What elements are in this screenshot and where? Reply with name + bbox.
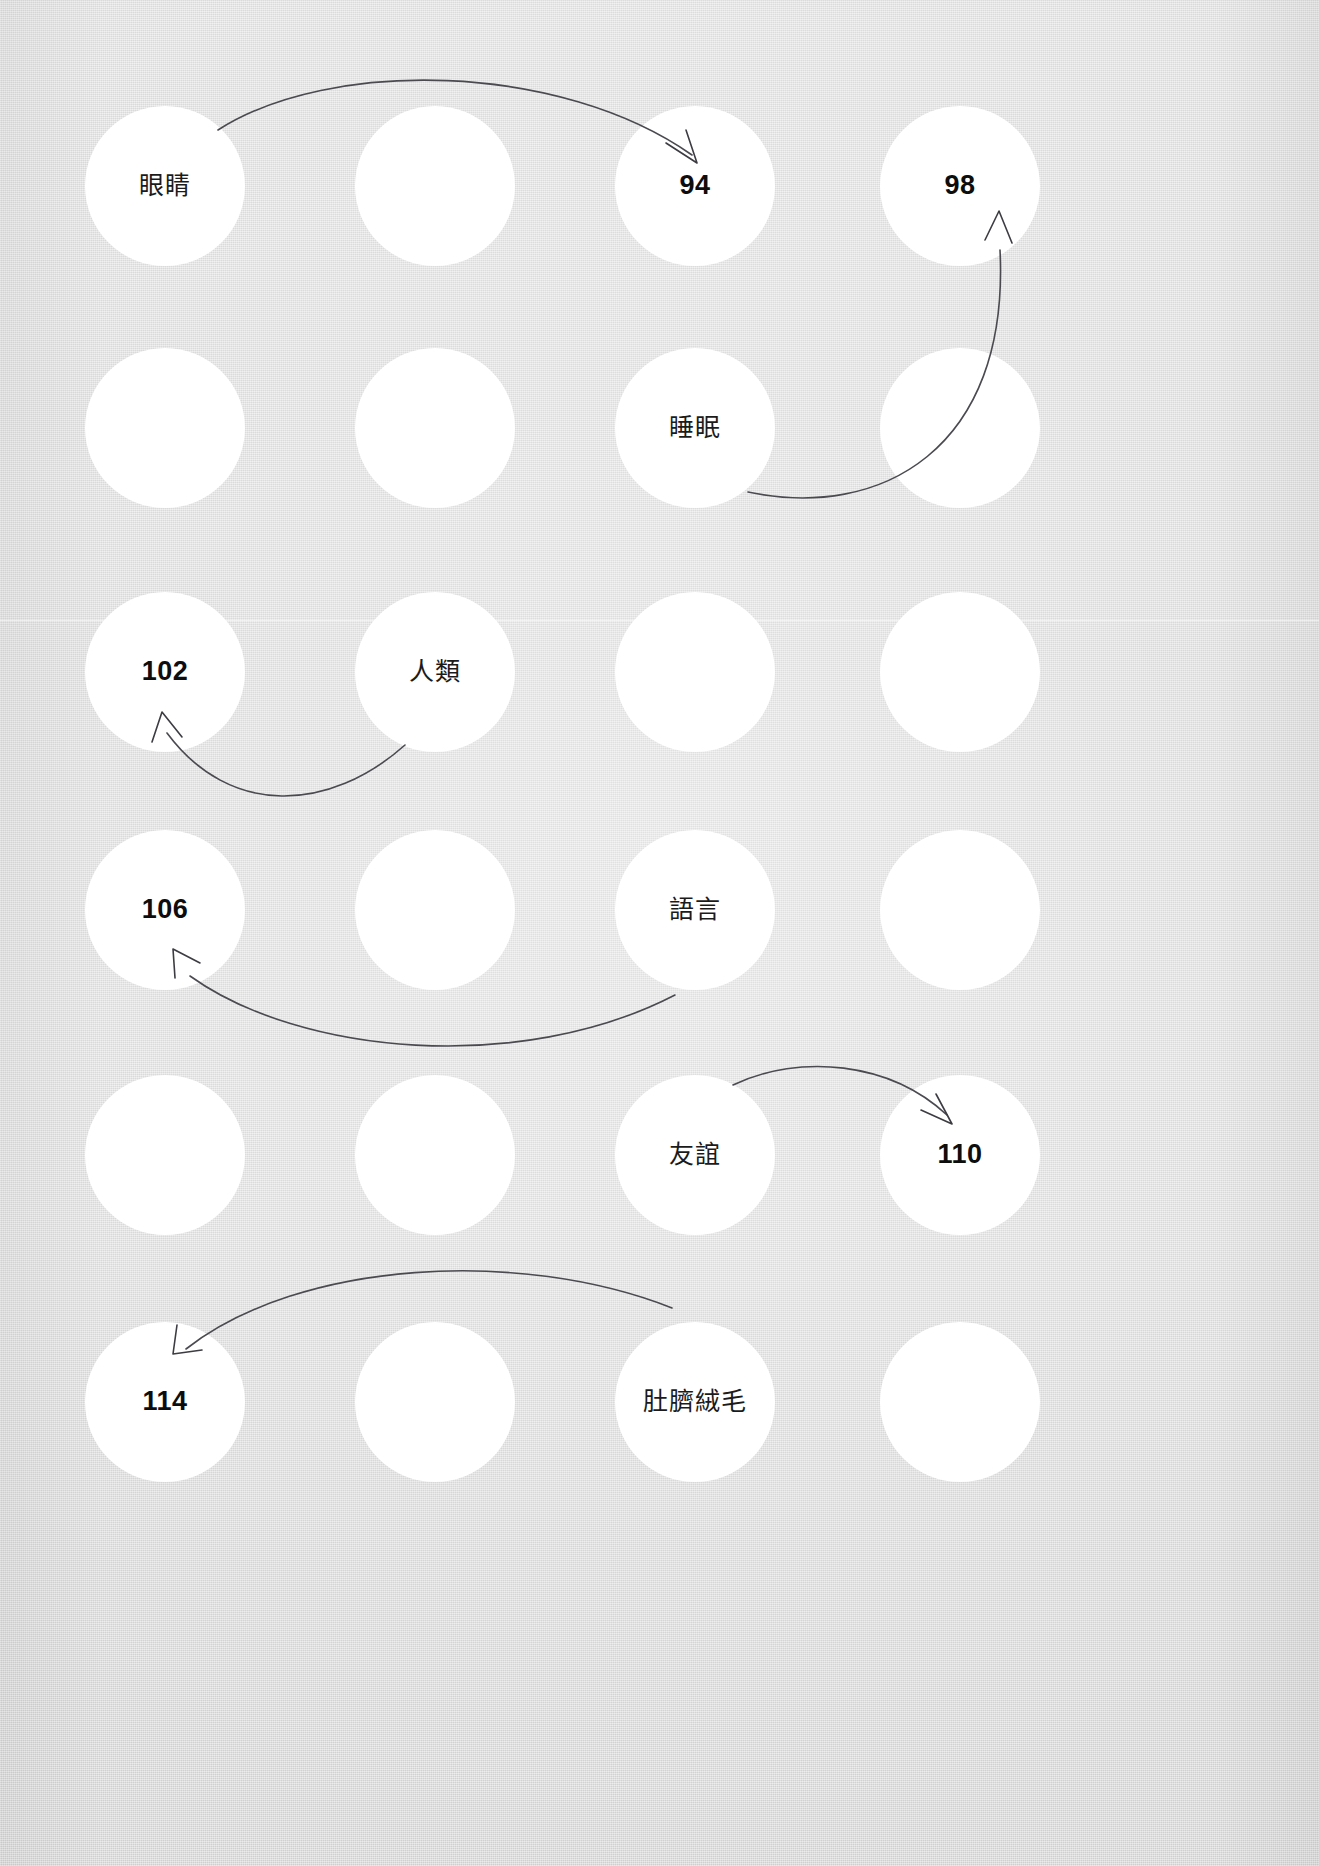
circle-r2c1[interactable] [85, 348, 245, 508]
term-label: 眼睛 [139, 172, 191, 200]
circle-r6c1[interactable]: 114 [85, 1322, 245, 1482]
circle-r5c4[interactable]: 110 [880, 1075, 1040, 1235]
circle-r6c4[interactable] [880, 1322, 1040, 1482]
term-label: 語言 [669, 896, 721, 924]
circle-r1c2[interactable] [355, 106, 515, 266]
circle-r1c1[interactable]: 眼睛 [85, 106, 245, 266]
page-number-label: 98 [944, 171, 975, 201]
term-label: 睡眠 [669, 414, 721, 442]
page-number-label: 106 [142, 895, 189, 925]
term-label: 肚臍絨毛 [643, 1388, 747, 1416]
circle-r3c2[interactable]: 人類 [355, 592, 515, 752]
circle-r3c4[interactable] [880, 592, 1040, 752]
circle-r4c1[interactable]: 106 [85, 830, 245, 990]
term-label: 友誼 [669, 1141, 721, 1169]
circle-r6c2[interactable] [355, 1322, 515, 1482]
circle-r3c1[interactable]: 102 [85, 592, 245, 752]
circle-r5c3[interactable]: 友誼 [615, 1075, 775, 1235]
circle-r4c2[interactable] [355, 830, 515, 990]
circle-r4c4[interactable] [880, 830, 1040, 990]
circle-r2c3[interactable]: 睡眠 [615, 348, 775, 508]
page-number-label: 102 [142, 657, 189, 687]
page-number-label: 114 [142, 1387, 187, 1417]
circle-r3c3[interactable] [615, 592, 775, 752]
poster-canvas: 眼睛9498睡眠102人類106語言友誼110114肚臍絨毛 [0, 0, 1319, 1866]
circle-r4c3[interactable]: 語言 [615, 830, 775, 990]
page-number-label: 110 [937, 1140, 982, 1170]
circle-r5c1[interactable] [85, 1075, 245, 1235]
circle-r1c4[interactable]: 98 [880, 106, 1040, 266]
circle-r6c3[interactable]: 肚臍絨毛 [615, 1322, 775, 1482]
circle-r2c4[interactable] [880, 348, 1040, 508]
circle-r1c3[interactable]: 94 [615, 106, 775, 266]
circle-r5c2[interactable] [355, 1075, 515, 1235]
circle-r2c2[interactable] [355, 348, 515, 508]
term-label: 人類 [409, 658, 461, 686]
page-number-label: 94 [679, 171, 710, 201]
